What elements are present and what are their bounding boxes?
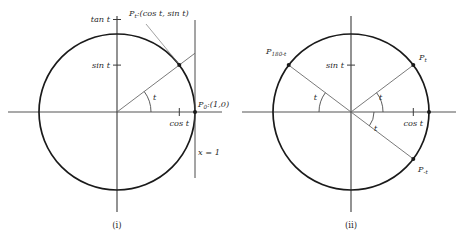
point-P180-minus-t-panel-ii <box>287 63 291 67</box>
label-Pmt-subscript: -t <box>424 169 429 175</box>
label-P180-minus-t-panel-ii: P180-t <box>265 46 287 57</box>
panel-ii: sin t cos t Pt P180-t P-t t t t (ii) <box>242 16 456 230</box>
point-Pt-panel-i <box>177 63 181 67</box>
label-cos-t-panel-ii: cos t <box>403 118 423 128</box>
label-P0-panel-i: P0:(1,0) <box>197 99 229 110</box>
label-P-minus-t-panel-ii: P-t <box>417 164 428 175</box>
angle-arc-left-panel-ii <box>319 93 325 112</box>
leader-line-Pt-panel-i <box>146 24 178 63</box>
label-angle-upper-panel-ii: t <box>379 92 383 102</box>
label-angle-t-panel-i: t <box>153 92 157 102</box>
label-x-equals-1: x = 1 <box>198 147 220 157</box>
label-cos-t-panel-i: cos t <box>169 118 189 128</box>
point-P0-panel-i <box>193 110 197 114</box>
point-P-minus-t-panel-ii <box>411 157 415 161</box>
label-Pt-panel-ii: Pt <box>418 52 428 63</box>
caption-panel-i: (i) <box>112 220 121 230</box>
trigonometry-figure: tan t sin t cos t Pt:(cos t, sin t) P0:(… <box>0 0 468 242</box>
label-P0-coordtext: :(1,0) <box>207 99 229 109</box>
label-Pt-subscript-panel-ii: t <box>425 57 428 63</box>
label-sin-t-panel-ii: sin t <box>326 60 345 70</box>
label-Pt-coordtext-panel-i: :(cos t, sin t) <box>137 8 189 18</box>
panel-i: tan t sin t cos t Pt:(cos t, sin t) P0:(… <box>8 8 229 230</box>
label-sin-t-panel-i: sin t <box>92 60 111 70</box>
label-tan-t: tan t <box>91 14 111 24</box>
label-Pt-coords-panel-i: Pt:(cos t, sin t) <box>128 8 189 19</box>
terminal-ray-panel-i <box>117 53 195 112</box>
angle-arc-t-panel-i <box>144 92 151 113</box>
label-P180mt-subscript: 180-t <box>272 51 288 57</box>
point-right-axis-panel-ii <box>427 110 431 114</box>
point-Pt-panel-ii <box>411 63 415 67</box>
caption-panel-ii: (ii) <box>345 220 357 230</box>
label-angle-left-panel-ii: t <box>314 92 318 102</box>
